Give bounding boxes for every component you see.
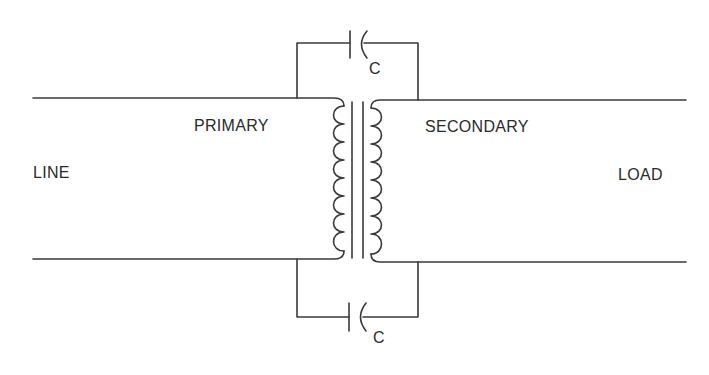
transformer-schematic <box>0 0 709 375</box>
wire-load-top <box>371 100 686 108</box>
label-capacitor-bottom: C <box>373 329 385 347</box>
label-primary: PRIMARY <box>194 117 269 135</box>
secondary-winding <box>371 108 382 254</box>
cap-top-plate-curved <box>362 31 368 58</box>
label-secondary: SECONDARY <box>425 118 529 136</box>
label-load: LOAD <box>618 166 663 184</box>
wire-cap-bottom <box>297 259 418 317</box>
label-capacitor-top: C <box>369 60 381 78</box>
wire-load-bottom <box>371 254 686 262</box>
primary-winding <box>334 106 345 251</box>
label-line: LINE <box>33 164 70 182</box>
wire-cap-top <box>297 43 418 100</box>
wire-line-top <box>33 98 344 106</box>
wire-line-bottom <box>33 251 344 259</box>
